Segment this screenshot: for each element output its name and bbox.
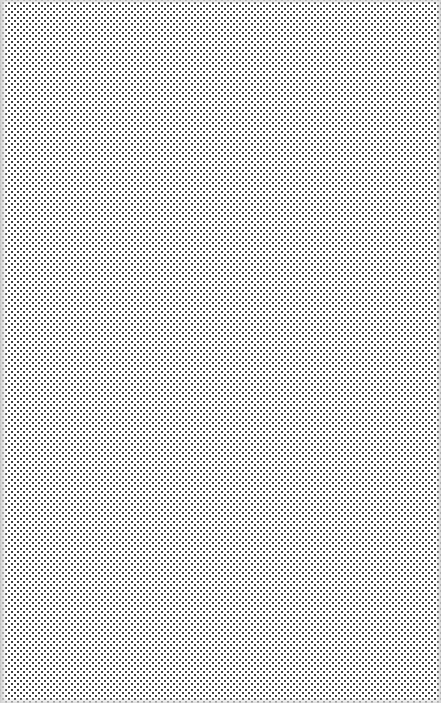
top-edge-shadow bbox=[0, 0, 441, 4]
dot-pattern-canvas: Dot pattern texture bbox=[0, 0, 441, 703]
left-edge-shadow bbox=[0, 0, 7, 703]
canvas-description: Dot pattern texture bbox=[0, 0, 1, 1]
right-edge-shadow bbox=[436, 0, 441, 703]
bottom-edge-shadow bbox=[0, 698, 441, 703]
